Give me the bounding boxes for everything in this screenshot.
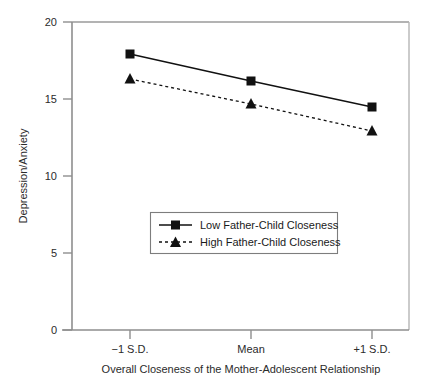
x-tick-label-mean: Mean	[237, 343, 265, 355]
y-tick-label-15: 15	[45, 93, 57, 105]
chart-legend: Low Father-Child Closeness High Father-C…	[151, 213, 342, 254]
plot-frame	[62, 22, 409, 330]
y-tick-label-5: 5	[51, 247, 57, 259]
chart-figure: 20 15 10 5 0 −1 S.D. Mean +1 S.D. Depres…	[0, 0, 444, 386]
x-axis-title: Overall Closeness of the Mother-Adolesce…	[102, 363, 381, 375]
legend-marker-square-icon	[171, 221, 180, 230]
data-point-high-mean	[246, 98, 257, 109]
x-axis-tick-labels: −1 S.D. Mean +1 S.D.	[112, 343, 391, 355]
data-point-low-plus1sd	[368, 103, 377, 112]
data-point-low-mean	[247, 77, 256, 86]
x-tick-label-plus1sd: +1 S.D.	[354, 343, 391, 355]
data-point-high-plus1sd	[367, 125, 378, 136]
line-chart: 20 15 10 5 0 −1 S.D. Mean +1 S.D. Depres…	[0, 0, 444, 386]
x-tick-label-minus1sd: −1 S.D.	[112, 343, 149, 355]
y-tick-label-10: 10	[45, 170, 57, 182]
data-point-low-minus1sd	[126, 50, 135, 59]
x-axis-ticks	[130, 330, 372, 339]
y-tick-label-0: 0	[51, 324, 57, 336]
data-point-high-minus1sd	[125, 73, 136, 84]
y-axis-tick-labels: 20 15 10 5 0	[45, 16, 57, 336]
y-axis-ticks	[63, 22, 72, 330]
legend-label-low: Low Father-Child Closeness	[200, 219, 339, 231]
y-tick-label-20: 20	[45, 16, 57, 28]
y-axis-title: Depression/Anxiety	[17, 128, 29, 223]
legend-label-high: High Father-Child Closeness	[200, 236, 341, 248]
